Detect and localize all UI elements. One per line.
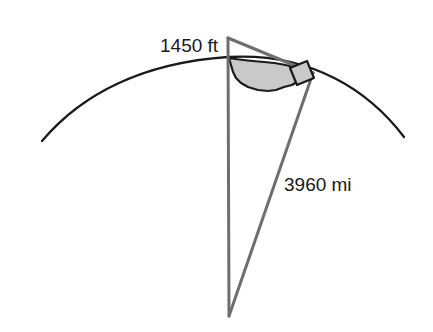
diagram-svg: 1450 ft 3960 mi (0, 0, 433, 332)
height-label: 1450 ft (160, 35, 219, 56)
radius-label: 3960 mi (284, 174, 352, 195)
geometry-diagram-canvas: 1450 ft 3960 mi (0, 0, 433, 332)
vertical-radius-line (228, 38, 229, 316)
